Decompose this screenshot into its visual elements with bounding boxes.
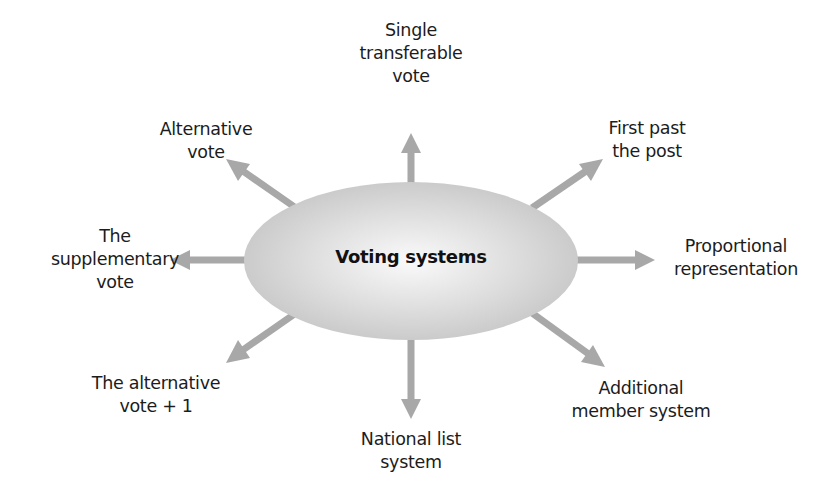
center-label: Voting systems (311, 246, 511, 267)
branch-label-additional-member-system: Additional member system (566, 377, 716, 423)
branch-label-alternative-vote-plus-one: The alternative vote + 1 (76, 372, 236, 418)
branch-label-alternative-vote: Alternative vote (146, 118, 266, 164)
arrow-down-left-icon (226, 313, 296, 363)
branch-label-supplementary-vote: The supplementary vote (35, 225, 195, 294)
arrow-down-icon (401, 339, 421, 419)
arrow-right-icon (577, 250, 655, 270)
branch-label-national-list-system: National list system (346, 428, 476, 474)
arrow-up-right-icon (532, 159, 603, 208)
arrow-up-left-icon (226, 159, 296, 208)
branch-label-proportional-representation: Proportional representation (661, 235, 811, 281)
arrow-up-icon (401, 133, 421, 184)
voting-systems-diagram: Voting systems Single transferable vote … (0, 0, 816, 499)
arrow-down-right-icon (532, 313, 605, 367)
branch-label-single-transferable-vote: Single transferable vote (351, 19, 471, 88)
branch-label-first-past-the-post: First past the post (592, 117, 702, 163)
